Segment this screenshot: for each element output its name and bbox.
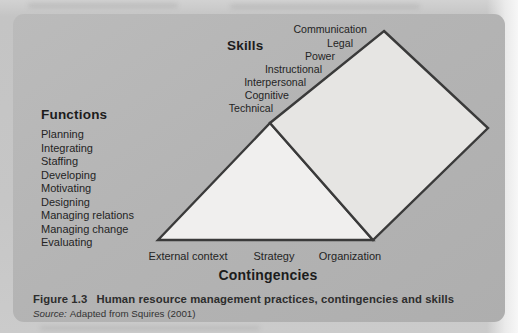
function-item-designing: Designing xyxy=(41,196,134,210)
function-item-integrating: Integrating xyxy=(41,142,134,156)
skill-item-instructional: Instructional xyxy=(265,63,322,75)
source-text: Adapted from Squires (2001) xyxy=(70,308,196,319)
source-label: Source: xyxy=(33,308,67,319)
function-item-evaluating: Evaluating xyxy=(41,236,134,250)
figure-number: Figure 1.3 xyxy=(33,293,87,305)
contingencies-heading: Contingencies xyxy=(218,267,317,283)
function-item-staffing: Staffing xyxy=(41,155,134,169)
page-bleedthrough-smudge xyxy=(230,4,420,9)
function-item-managing-relations: Managing relations xyxy=(41,209,134,223)
figure-source: Source:Adapted from Squires (2001) xyxy=(33,308,196,319)
figure-caption: Figure 1.3Human resource management prac… xyxy=(33,293,454,305)
page-bleedthrough-smudge xyxy=(40,326,260,330)
skills-heading: Skills xyxy=(227,38,263,53)
skill-item-interpersonal: Interpersonal xyxy=(244,76,306,88)
function-item-managing-change: Managing change xyxy=(41,223,134,237)
function-item-planning: Planning xyxy=(41,128,134,142)
page-bleedthrough-smudge xyxy=(28,3,178,8)
contingency-item-external-context: External context xyxy=(149,250,228,262)
figure-card: Skills Communication Legal Power Instruc… xyxy=(13,14,505,322)
figure-title: Human resource management practices, con… xyxy=(96,293,454,305)
contingency-item-organization: Organization xyxy=(319,250,381,262)
skill-item-cognitive: Cognitive xyxy=(245,89,289,101)
scanned-book-page: { "figure": { "skills": { "heading": "Sk… xyxy=(0,0,518,333)
skill-item-technical: Technical xyxy=(229,102,273,114)
function-item-developing: Developing xyxy=(41,169,134,183)
function-item-motivating: Motivating xyxy=(41,182,134,196)
skill-item-communication: Communication xyxy=(293,23,367,35)
functions-list: Functions Planning Integrating Staffing … xyxy=(41,107,134,250)
skill-item-power: Power xyxy=(305,50,335,62)
functions-heading: Functions xyxy=(41,107,134,123)
contingency-item-strategy: Strategy xyxy=(254,250,295,262)
skill-item-legal: Legal xyxy=(327,37,353,49)
